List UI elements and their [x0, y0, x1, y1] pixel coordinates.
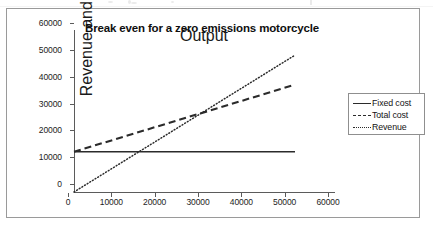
x-axis-line	[74, 192, 335, 193]
y-tick-label: 40000	[18, 72, 62, 82]
plot-area	[74, 31, 334, 192]
legend-item-revenue: Revenue	[352, 121, 422, 133]
scan-artifact	[171, 1, 174, 3]
x-tick-label: 50000	[273, 197, 296, 207]
legend-line-dashed-icon	[352, 110, 372, 121]
x-tick-label: 30000	[186, 197, 209, 207]
legend-label: Total cost	[372, 110, 408, 120]
x-tick-label: 40000	[230, 197, 253, 207]
y-tick-label: 20000	[18, 125, 62, 135]
x-tick-label: 60000	[316, 197, 339, 207]
y-tick-mark	[70, 23, 74, 24]
data-series-group	[74, 31, 334, 192]
legend-line-dotted-icon	[352, 122, 372, 133]
y-tick-label: 30000	[18, 99, 62, 109]
legend-item-total-cost: Total cost	[352, 109, 422, 121]
scan-artifact	[310, 0, 312, 5]
y-tick-label: 60000	[18, 18, 62, 28]
legend-label: Revenue	[372, 122, 407, 132]
series-line-revenue	[74, 55, 295, 192]
scan-artifact	[0, 6, 433, 7]
series-line-total-cost	[74, 85, 295, 152]
legend-line-solid-icon	[352, 98, 372, 109]
chart-legend: Fixed cost Total cost Revenue	[348, 93, 425, 135]
y-tick-label: 10000	[18, 152, 62, 162]
y-tick-label: 0	[18, 179, 62, 189]
chart-frame: Break even for a zero emissions motorcyc…	[6, 8, 420, 218]
scan-artifact	[131, 2, 137, 4]
legend-item-fixed-cost: Fixed cost	[352, 97, 422, 109]
legend-label: Fixed cost	[372, 98, 411, 108]
scan-artifact	[108, 1, 113, 3]
y-tick-label: 50000	[18, 45, 62, 55]
x-tick-label: 10000	[100, 197, 123, 207]
x-tick-label: 0	[66, 197, 71, 207]
x-tick-label: 20000	[143, 197, 166, 207]
